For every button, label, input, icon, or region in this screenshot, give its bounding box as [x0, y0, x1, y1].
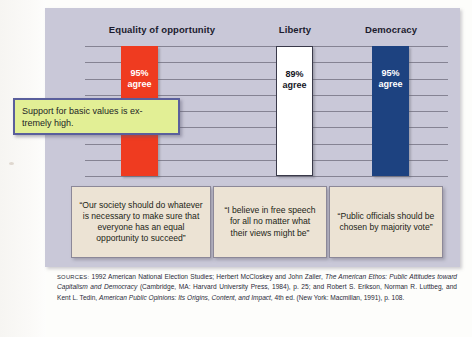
gridline [85, 176, 448, 177]
bar-percent-liberty: 89% [277, 69, 312, 80]
column-title-democracy: Democracy [327, 24, 455, 35]
quote-card-equality: “Our society should do whatever is neces… [71, 186, 211, 258]
bar-percent-democracy: 95% [372, 68, 409, 79]
bar-percent-equality: 95% [121, 68, 158, 79]
sources-line-1: 1992 American National Election Studies;… [89, 273, 325, 280]
column-equality-of-opportunity: Equality of opportunity [67, 24, 257, 35]
sources-italic-2: American Public Opinions: Its Origins, C… [99, 294, 273, 301]
column-title-equality: Equality of opportunity [67, 24, 257, 35]
annotation-callout[interactable]: Support for basic values is ex-tremely h… [13, 98, 180, 135]
chart-panel: Equality of opportunity 95% agree Libert… [45, 8, 460, 267]
bar-democracy[interactable]: 95% agree [372, 46, 409, 176]
scan-speck [9, 162, 14, 165]
sources-label: SOURCES: [57, 274, 89, 280]
figure-page: Equality of opportunity 95% agree Libert… [0, 0, 472, 337]
bar-agree-democracy: agree [372, 79, 409, 90]
bar-value-label-liberty: 89% agree [277, 69, 312, 91]
quote-card-democracy: “Public officials should be chosen by ma… [329, 186, 443, 258]
quote-text-liberty: “I believe in free speech for all no mat… [221, 205, 319, 239]
scan-edge-shading [0, 0, 46, 337]
bar-liberty[interactable]: 89% agree [276, 46, 313, 176]
bar-value-label-equality: 95% agree [121, 68, 158, 90]
sources-note: SOURCES: 1992 American National Election… [57, 272, 457, 303]
column-democracy: Democracy [327, 24, 455, 35]
quote-card-liberty: “I believe in free speech for all no mat… [213, 186, 327, 258]
sources-line-3: 4th ed. (New York: Macmillan, 1991), p. … [273, 294, 405, 301]
bar-agree-liberty: agree [277, 80, 312, 91]
bar-value-label-democracy: 95% agree [372, 68, 409, 90]
quote-text-equality: “Our society should do whatever is neces… [79, 200, 203, 245]
annotation-callout-text: Support for basic values is ex-tremely h… [22, 105, 171, 129]
quote-text-democracy: “Public officials should be chosen by ma… [337, 211, 435, 233]
bar-agree-equality: agree [121, 79, 158, 90]
